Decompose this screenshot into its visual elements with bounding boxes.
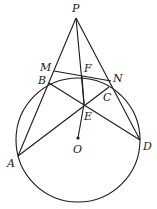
label-p: P — [71, 2, 80, 15]
geometry-diagram: P M B F N C E O A D — [0, 0, 157, 209]
label-a: A — [6, 157, 15, 170]
label-m: M — [39, 61, 52, 74]
label-e: E — [83, 110, 92, 123]
segment-pa — [18, 18, 76, 156]
label-d: D — [142, 140, 152, 153]
label-f: F — [83, 62, 92, 75]
label-o: O — [73, 143, 82, 156]
label-c: C — [103, 91, 112, 104]
segment-ac — [18, 87, 109, 156]
center-dot — [76, 136, 79, 139]
segment-bd — [49, 83, 140, 140]
label-n: N — [112, 72, 123, 85]
circle-o — [16, 78, 140, 202]
label-b: B — [37, 74, 46, 87]
